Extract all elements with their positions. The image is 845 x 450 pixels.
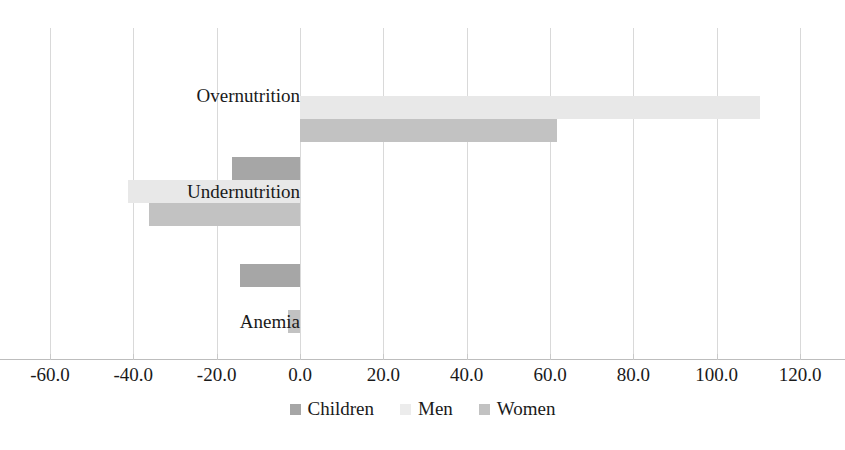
bar-chart: OvernutritionUndernutritionAnemia -60.0-… (0, 0, 845, 450)
x-tick-label-0neg0: 0.0 (288, 364, 312, 386)
x-tick-label-20neg0: 20.0 (367, 364, 400, 386)
gridline-20 (383, 28, 384, 360)
legend-swatch-children-icon (290, 404, 301, 415)
x-tick-mark (550, 354, 551, 360)
legend-item-women[interactable]: Women (479, 398, 556, 420)
category-label-overnutrition: Overnutrition (197, 85, 300, 107)
gridline-80 (633, 28, 634, 360)
legend-label-men: Men (418, 398, 453, 420)
x-tick-mark (800, 354, 801, 360)
category-label-undernutrition: Undernutrition (187, 181, 300, 203)
bar-women-undernutrition (149, 203, 300, 226)
x-tick-label-neg60-0: -60.0 (30, 364, 70, 386)
x-tick-mark (217, 354, 218, 360)
x-tick-mark (300, 354, 301, 360)
x-tick-mark (467, 354, 468, 360)
x-tick-label-40neg0: 40.0 (450, 364, 483, 386)
x-tick-mark (633, 354, 634, 360)
legend-swatch-women-icon (479, 404, 490, 415)
bar-children-anemia (240, 264, 300, 287)
x-tick-label-neg40-0: -40.0 (114, 364, 154, 386)
x-tick-label-60neg0: 60.0 (533, 364, 566, 386)
legend-item-children[interactable]: Children (290, 398, 375, 420)
gridline-40 (467, 28, 468, 360)
x-tick-mark (717, 354, 718, 360)
bar-women-overnutrition (300, 119, 557, 142)
legend-label-children: Children (308, 398, 375, 420)
gridline-100 (717, 28, 718, 360)
x-tick-label-neg20-0: -20.0 (197, 364, 237, 386)
bar-men-overnutrition (300, 96, 760, 119)
category-label-anemia: Anemia (240, 311, 300, 333)
bar-children-undernutrition (232, 157, 300, 180)
gridline-60 (550, 28, 551, 360)
x-tick-mark (50, 354, 51, 360)
x-tick-label-80neg0: 80.0 (617, 364, 650, 386)
legend-item-men[interactable]: Men (400, 398, 453, 420)
x-tick-mark (133, 354, 134, 360)
legend-swatch-men-icon (400, 404, 411, 415)
x-tick-label-120neg0: 120.0 (779, 364, 822, 386)
gridline-0 (300, 28, 301, 360)
x-axis: -60.0-40.0-20.00.020.040.060.080.0100.01… (0, 360, 845, 390)
chart-legend: ChildrenMenWomen (0, 398, 845, 420)
x-tick-mark (383, 354, 384, 360)
plot-area (0, 28, 845, 360)
gridline-120 (800, 28, 801, 360)
gridline-neg60 (50, 28, 51, 360)
legend-label-women: Women (497, 398, 556, 420)
x-tick-label-100neg0: 100.0 (695, 364, 738, 386)
